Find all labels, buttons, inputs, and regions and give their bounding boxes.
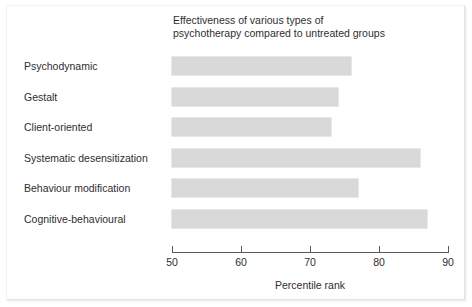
chart-figure: Effectiveness of various types of psycho… (0, 0, 472, 307)
x-axis-tick (310, 246, 311, 253)
bar (172, 210, 427, 228)
bar (172, 179, 358, 197)
chart-title: Effectiveness of various types of psycho… (173, 14, 413, 39)
bar (172, 118, 331, 136)
x-axis-tick-label: 60 (235, 256, 247, 268)
bar (172, 88, 338, 106)
x-axis-tick (379, 246, 380, 253)
category-label: Client-oriented (24, 121, 92, 133)
x-axis-tick (172, 246, 173, 253)
x-axis-tick-label: 90 (442, 256, 454, 268)
category-label: Gestalt (24, 91, 57, 103)
x-axis-tick (241, 246, 242, 253)
x-axis-title: Percentile rank (172, 279, 448, 291)
category-label: Cognitive-behavioural (24, 213, 126, 225)
x-axis-tick-label: 50 (166, 256, 178, 268)
x-axis-tick-label: 70 (304, 256, 316, 268)
x-axis-tick (448, 246, 449, 253)
x-axis-tick-label: 80 (373, 256, 385, 268)
bar (172, 149, 420, 167)
category-label: Behaviour modification (24, 182, 130, 194)
category-label: Psychodynamic (24, 60, 98, 72)
bar (172, 57, 351, 75)
category-label: Systematic desensitization (24, 152, 148, 164)
